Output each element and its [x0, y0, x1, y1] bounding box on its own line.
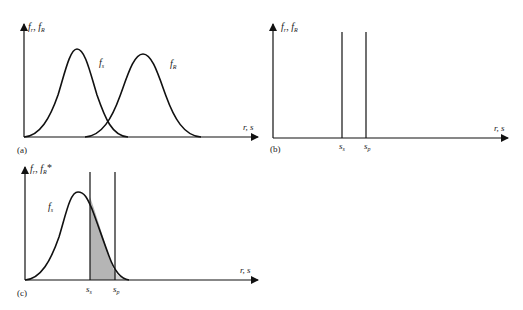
x-axis-label-a: r, s: [243, 122, 254, 132]
panel-tag-b: (b): [270, 144, 281, 154]
curve-fs-c: [25, 192, 129, 280]
curve-fs-a: [24, 49, 128, 137]
marker-label-sp-b: sp: [364, 141, 371, 152]
y-axis-label-b: fr, fR: [281, 21, 298, 33]
marker-label-ss-c: ss: [86, 284, 93, 295]
marker-label-ss-b: ss: [339, 141, 346, 152]
curve-label-fs-c: fs: [48, 201, 54, 213]
figure: fr, fR fs fR r, s (a) fr, fR ss sp r, s …: [0, 0, 523, 310]
panel-c: fr, fR* fs ss sp r, s (c): [17, 162, 258, 298]
curve-label-fs-a: fs: [99, 57, 105, 69]
x-axis-label-b: r, s: [494, 123, 505, 133]
marker-label-sp-c: sp: [113, 284, 120, 295]
panel-a: fr, fR fs fR r, s (a): [17, 21, 258, 155]
curve-label-fR-a: fR: [170, 58, 177, 70]
panel-tag-a: (a): [17, 145, 27, 155]
y-axis-label-a: fr, fR: [28, 21, 45, 33]
y-axis-label-c: fr, fR*: [30, 162, 52, 175]
panel-b: fr, fR ss sp r, s (b): [270, 21, 508, 154]
x-axis-label-c: r, s: [240, 265, 251, 275]
panel-tag-c: (c): [17, 288, 27, 298]
